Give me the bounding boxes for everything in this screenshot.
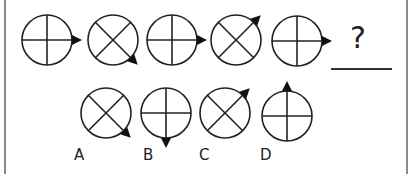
option-b-label[interactable]: B: [143, 146, 153, 164]
sequence-figure-5: [272, 16, 332, 66]
option-d-label[interactable]: D: [260, 146, 272, 164]
option-a-figure[interactable]: [81, 88, 134, 141]
answer-underline: [331, 68, 392, 70]
arrow-right-icon: [197, 35, 207, 45]
sequence-figure-2: [88, 15, 141, 68]
option-c-figure[interactable]: [200, 85, 253, 138]
arrow-down-icon: [161, 138, 171, 148]
option-b-figure[interactable]: [141, 88, 191, 148]
arrow-right-icon: [72, 35, 82, 45]
option-a-label[interactable]: A: [74, 146, 84, 164]
sequence-figure-3: [147, 15, 207, 65]
arrow-right-icon: [322, 36, 332, 46]
option-d-figure[interactable]: [262, 81, 312, 141]
missing-figure-placeholder: ?: [350, 20, 366, 55]
sequence-figure-1: [22, 15, 82, 65]
sequence-figure-4: [211, 12, 264, 65]
option-c-label[interactable]: C: [199, 146, 209, 164]
arrow-up-icon: [282, 81, 292, 91]
